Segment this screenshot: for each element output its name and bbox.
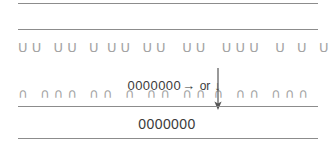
- lower-glyph-row: ∩ ∩ ∩ ∩ ∩ ∩ ∩ ∩ ∩ ∩ ∩ ∩ ∩ ∩ ∩ ∩ ∩: [18, 86, 318, 102]
- horizontal-rule-lower: [18, 106, 318, 107]
- upper-glyph-row: U U U U U U U U U U U U U U U U U: [18, 40, 318, 56]
- horizontal-rule-bottom: [18, 138, 318, 139]
- bottom-caption: 0000000: [0, 114, 334, 134]
- diagram-canvas: U U U U U U U U U U U U U U U U U 000000…: [0, 0, 334, 150]
- center-caption: 0000000→ or↓: [0, 59, 334, 77]
- horizontal-rule-upper: [18, 29, 318, 30]
- long-down-arrow-icon: [212, 68, 224, 110]
- horizontal-rule-top: [18, 3, 318, 4]
